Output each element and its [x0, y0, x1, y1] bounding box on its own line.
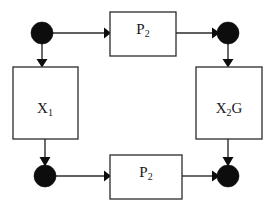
box-outline: [196, 67, 262, 139]
label-base: P: [136, 21, 144, 37]
edge-x2g-to-bottomright-node: [223, 139, 234, 167]
box-x1[interactable]: X1: [13, 67, 78, 139]
edge-x1-to-bottomleft-node: [40, 139, 51, 167]
edge-p2top-to-topright-node: [176, 28, 220, 39]
label-subscript: 1: [48, 107, 53, 118]
box-p2-top[interactable]: P2: [110, 12, 176, 56]
label-base: X: [216, 100, 227, 116]
flow-diagram: P2 X1 X2G P2: [0, 0, 275, 203]
arrowhead-icon: [37, 59, 48, 68]
node-bottom-left[interactable]: [34, 165, 56, 187]
diagram-canvas: P2 X1 X2G P2: [0, 0, 275, 203]
label-subscript: 2: [148, 171, 153, 182]
box-x2g[interactable]: X2G: [196, 67, 262, 139]
label-base: X: [37, 100, 48, 116]
edge-bottomleft-node-to-p2bottom: [53, 171, 111, 182]
arrowhead-icon: [223, 59, 234, 68]
label-base: P: [139, 164, 147, 180]
node-top-left[interactable]: [31, 22, 53, 44]
edge-topleft-node-to-p2top: [50, 28, 111, 39]
edge-p2bottom-to-bottomright-node: [182, 171, 220, 182]
node-top-right[interactable]: [217, 22, 239, 44]
label-subscript: 2: [145, 28, 150, 39]
label-suffix: G: [232, 100, 243, 116]
box-p2-bottom[interactable]: P2: [110, 155, 182, 199]
node-bottom-right[interactable]: [217, 165, 239, 187]
